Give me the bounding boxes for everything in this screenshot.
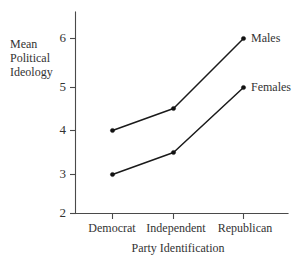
data-point-females-republican — [241, 85, 245, 89]
chart-figure: 6 5 4 3 2 Democrat Independent Republica… — [0, 0, 301, 266]
y-tick-label-4: 4 — [60, 122, 67, 137]
y-axis-title-line-2: Political — [10, 51, 51, 65]
y-tick-label-3: 3 — [60, 166, 67, 181]
series-label-males: Males — [251, 31, 281, 45]
y-tick-label-2: 2 — [60, 205, 67, 220]
series-line-females — [113, 88, 244, 175]
interaction-plot-svg: 6 5 4 3 2 Democrat Independent Republica… — [0, 0, 301, 266]
data-point-females-democrat — [110, 172, 114, 176]
series-label-females: Females — [251, 80, 291, 94]
data-point-females-independent — [171, 150, 175, 154]
y-tick-label-6: 6 — [60, 30, 67, 45]
x-axis-title: Party Identification — [132, 241, 225, 255]
y-axis-title-line-1: Mean — [10, 37, 37, 51]
series-line-males — [113, 39, 244, 131]
x-tick-label-republican: Republican — [218, 221, 273, 235]
x-tick-label-democrat: Democrat — [88, 221, 136, 235]
data-point-males-democrat — [110, 128, 114, 132]
data-point-males-republican — [241, 36, 245, 40]
y-axis-title-line-3: Ideology — [10, 65, 53, 79]
data-point-males-independent — [171, 106, 175, 110]
y-tick-label-5: 5 — [60, 79, 67, 94]
x-tick-label-independent: Independent — [146, 221, 206, 235]
